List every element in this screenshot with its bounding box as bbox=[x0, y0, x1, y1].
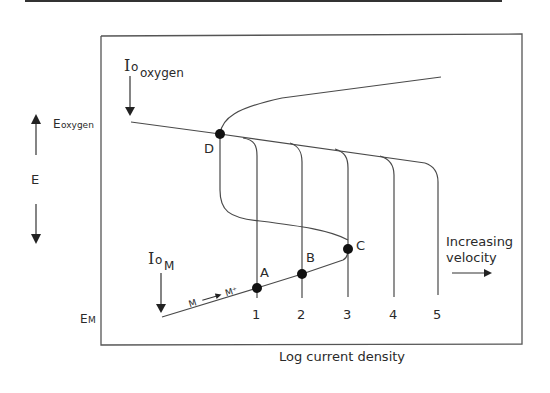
point-c bbox=[343, 244, 353, 254]
label-b: B bbox=[306, 250, 315, 265]
io-m-main: I bbox=[148, 249, 154, 268]
curve-label-1: 1 bbox=[252, 307, 260, 322]
point-b bbox=[297, 269, 307, 279]
plot-frame-top bbox=[101, 34, 522, 144]
reaction-left: M bbox=[187, 297, 197, 309]
curve-label-3: 3 bbox=[343, 307, 351, 322]
velocity-curve-5 bbox=[425, 163, 438, 295]
io-oxygen-sub0: o bbox=[131, 60, 138, 74]
right-arrow-icon bbox=[215, 292, 222, 299]
curve-label-2: 2 bbox=[297, 307, 305, 322]
velocity-curve-3 bbox=[335, 149, 348, 297]
x-axis-label: Log current density bbox=[279, 349, 405, 364]
io-m-sub1: M bbox=[164, 259, 174, 273]
e-m-main: E bbox=[80, 312, 88, 326]
velocity-curve-1 bbox=[243, 138, 257, 298]
io-m-sub0: o bbox=[155, 253, 162, 267]
plot-frame bbox=[101, 36, 522, 345]
e-oxygen-main: E bbox=[53, 117, 61, 131]
up-arrow-icon bbox=[31, 114, 41, 124]
label-c: C bbox=[356, 238, 365, 253]
e-oxygen-sub: oxygen bbox=[61, 120, 94, 130]
e-m-sub: M bbox=[88, 315, 96, 325]
curve-label-5: 5 bbox=[433, 307, 441, 322]
io-oxygen-sub1: oxygen bbox=[140, 66, 184, 80]
annotation-line2: velocity bbox=[446, 250, 497, 265]
reaction-right: M⁺ bbox=[224, 285, 239, 298]
point-d bbox=[215, 129, 225, 139]
velocity-curve-4 bbox=[380, 156, 394, 297]
annotation-line1: Increasing bbox=[446, 234, 513, 249]
down-arrow-icon bbox=[125, 107, 135, 116]
right-arrow-icon bbox=[484, 269, 492, 277]
down-arrow-icon bbox=[156, 304, 166, 313]
label-d: D bbox=[204, 141, 214, 156]
down-arrow-icon bbox=[31, 234, 41, 244]
y-axis-label: E bbox=[31, 172, 39, 187]
io-oxygen-main: I bbox=[124, 56, 130, 75]
label-a: A bbox=[260, 265, 269, 280]
curve-label-4: 4 bbox=[389, 307, 397, 322]
point-a bbox=[252, 283, 262, 293]
evans-diagram: D A B C 1 2 3 4 5 I o oxygen I o M M M⁺ … bbox=[0, 0, 550, 393]
oxygen-anodic-line bbox=[220, 77, 441, 134]
reaction-label: M M⁺ bbox=[187, 285, 238, 309]
reaction-arrow-shaft bbox=[202, 296, 217, 301]
